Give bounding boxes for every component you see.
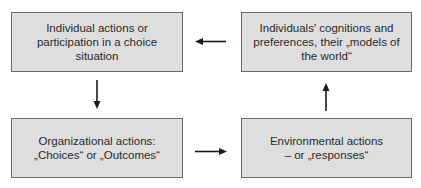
- arrow-down-icon: [94, 80, 101, 109]
- arrow-right-icon: [195, 148, 227, 155]
- arrows-layer: [0, 0, 421, 188]
- arrow-left-icon: [195, 38, 226, 45]
- arrow-up-icon: [323, 83, 330, 111]
